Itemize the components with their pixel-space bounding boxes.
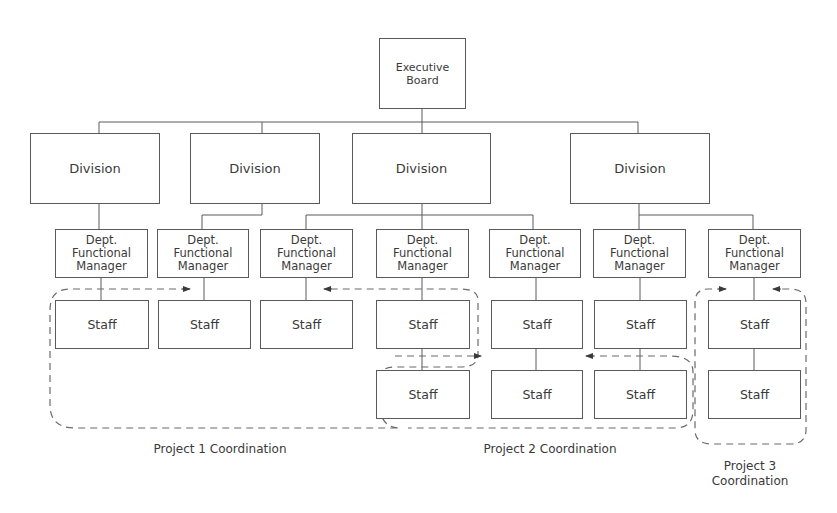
manager-box-4: Dept. Functional Manager [376, 229, 469, 278]
project-2-label: Project 2 Coordination [470, 442, 630, 457]
staff-label: Staff [190, 318, 219, 332]
staff-box: Staff [594, 370, 687, 419]
staff-box: Staff [708, 300, 801, 349]
manager-label: Dept. Functional Manager [610, 234, 669, 273]
manager-box-7: Dept. Functional Manager [708, 229, 801, 278]
staff-label: Staff [408, 388, 437, 402]
manager-label: Dept. Functional Manager [173, 234, 232, 273]
division-box-2: Division [190, 133, 320, 204]
staff-label: Staff [87, 318, 116, 332]
division-box-4: Division [570, 133, 710, 204]
staff-box: Staff [594, 300, 687, 349]
division-box-1: Division [30, 133, 160, 204]
manager-box-6: Dept. Functional Manager [593, 229, 686, 278]
division-label: Division [396, 162, 448, 176]
staff-box: Staff [376, 370, 470, 419]
division-box-3: Division [352, 133, 491, 204]
project-3-label: Project 3 Coordination [700, 459, 800, 489]
staff-label: Staff [408, 318, 437, 332]
staff-label: Staff [292, 318, 321, 332]
manager-label: Dept. Functional Manager [505, 234, 564, 273]
manager-box-3: Dept. Functional Manager [260, 229, 353, 278]
executive-board-box: Executive Board [379, 38, 466, 109]
manager-label: Dept. Functional Manager [277, 234, 336, 273]
staff-box: Staff [260, 300, 353, 349]
staff-box: Staff [158, 300, 251, 349]
org-chart-diagram: Executive Board Division Division Divisi… [0, 0, 837, 513]
manager-box-2: Dept. Functional Manager [157, 229, 249, 278]
manager-box-5: Dept. Functional Manager [489, 229, 581, 278]
staff-label: Staff [522, 318, 551, 332]
division-label: Division [229, 162, 281, 176]
staff-box: Staff [491, 370, 583, 419]
staff-label: Staff [626, 318, 655, 332]
staff-label: Staff [626, 388, 655, 402]
staff-box: Staff [55, 300, 149, 349]
staff-box: Staff [491, 300, 583, 349]
manager-label: Dept. Functional Manager [393, 234, 452, 273]
division-label: Division [614, 162, 666, 176]
division-label: Division [69, 162, 121, 176]
staff-label: Staff [522, 388, 551, 402]
project-1-label: Project 1 Coordination [140, 442, 300, 457]
staff-label: Staff [740, 318, 769, 332]
executive-board-label: Executive Board [396, 61, 450, 87]
manager-label: Dept. Functional Manager [72, 234, 131, 273]
staff-label: Staff [740, 388, 769, 402]
staff-box: Staff [376, 300, 470, 349]
manager-label: Dept. Functional Manager [725, 234, 784, 273]
staff-box: Staff [708, 370, 801, 419]
manager-box-1: Dept. Functional Manager [55, 229, 148, 278]
